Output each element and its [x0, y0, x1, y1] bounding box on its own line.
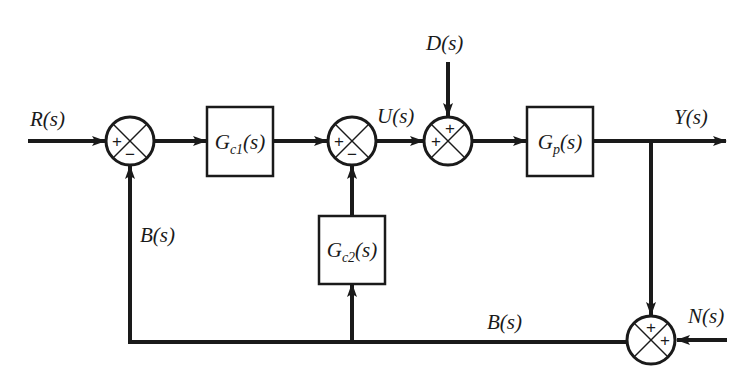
feedback-left-label: B(s)	[140, 223, 175, 247]
sum3-top-sign: +	[445, 119, 455, 138]
sum1-bottom-sign: −	[125, 145, 135, 164]
control-label: U(s)	[377, 104, 414, 128]
disturbance-label: D(s)	[425, 31, 463, 55]
output-label: Y(s)	[674, 105, 708, 129]
sum4-right-sign: +	[660, 331, 670, 350]
input-label: R(s)	[29, 107, 65, 131]
sum2-bottom-sign: −	[347, 145, 357, 164]
sum2-left-sign: +	[334, 132, 344, 151]
sum1-left-sign: +	[112, 132, 122, 151]
sum4-top-sign: +	[646, 318, 656, 337]
block-diagram: + − + − + + + + Gc1(s) Gp(s) Gc2(s) R(s)…	[0, 0, 749, 385]
sum3-left-sign: +	[431, 132, 441, 151]
noise-label: N(s)	[687, 304, 724, 328]
feedback-bottom-label: B(s)	[487, 310, 522, 334]
gp-label: Gp(s)	[538, 130, 582, 157]
